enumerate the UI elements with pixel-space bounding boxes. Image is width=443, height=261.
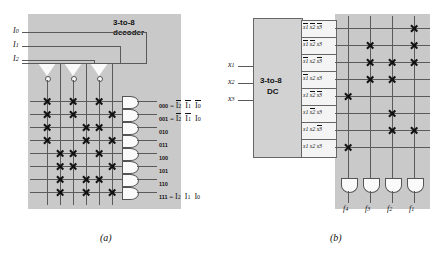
input-label-i1: I1 [13, 40, 19, 49]
input-wire-i1 [22, 46, 121, 47]
connection-mark [108, 110, 117, 119]
input-wire-i2 [22, 60, 95, 61]
input-label-i2: I2 [13, 54, 19, 63]
output-wire [137, 166, 157, 167]
input-label-x2: x2 [228, 77, 235, 86]
col-line-i1 [86, 63, 87, 205]
output-stem [370, 191, 371, 203]
output-label: f4 [343, 204, 348, 213]
output-stem [392, 191, 393, 203]
caption-b: (b) [330, 232, 342, 243]
connection-mark [56, 162, 65, 171]
output-wire [137, 179, 157, 180]
col-line-i2 [60, 63, 61, 205]
connection-mark [410, 41, 419, 50]
drop-i0 [146, 32, 147, 63]
connection-mark [410, 126, 419, 135]
output-wire [137, 192, 157, 193]
connection-mark [344, 143, 353, 152]
and-gate [122, 96, 139, 109]
inverter-i1 [64, 63, 82, 76]
inv-feed-i0 [90, 63, 147, 64]
output-wire [137, 127, 157, 128]
connection-mark [388, 58, 397, 67]
and-gate [122, 161, 139, 174]
and-gate [122, 109, 139, 122]
minterm-label: x1 x2 x3 [303, 126, 322, 132]
connection-mark [43, 123, 52, 132]
connection-mark [344, 92, 353, 101]
connection-mark [95, 175, 104, 184]
row-line-110 [30, 179, 122, 180]
inverter-i0 [90, 63, 108, 76]
and-gate [122, 135, 139, 148]
connection-mark [410, 24, 419, 33]
and-gate [122, 174, 139, 187]
output-label: f3 [365, 204, 370, 213]
connection-mark [366, 75, 375, 84]
connection-mark [388, 109, 397, 118]
output-wire [137, 101, 157, 102]
and-gate [122, 187, 139, 200]
connection-mark [95, 123, 104, 132]
output-label: 111 = I2 I1 I0 [159, 185, 200, 203]
connection-mark [82, 136, 91, 145]
connection-mark [410, 58, 419, 67]
drop-i1 [120, 46, 121, 63]
input-label-i0: I0 [13, 26, 19, 35]
connection-mark [82, 175, 91, 184]
connection-mark [82, 123, 91, 132]
connection-mark [56, 175, 65, 184]
input-label-x3: x3 [228, 94, 235, 103]
connection-mark [69, 149, 78, 158]
minterm-row-wire [335, 113, 430, 114]
output-stem [348, 191, 349, 203]
decoder-block-label-line2: DC [267, 87, 279, 96]
connection-mark [43, 136, 52, 145]
connection-mark [108, 188, 117, 197]
minterm-row-wire [335, 79, 430, 80]
connection-mark [69, 162, 78, 171]
caption-a: (a) [100, 232, 112, 243]
minterm-label: x1 x2 x3 [303, 58, 322, 64]
output-wire [137, 140, 157, 141]
output-wire [137, 153, 157, 154]
inverter-i2 [38, 63, 56, 76]
output-stem [414, 191, 415, 203]
connection-mark [82, 188, 91, 197]
output-wire [137, 114, 157, 115]
or-gate [341, 178, 358, 193]
or-gate [407, 178, 424, 193]
connection-mark [108, 162, 117, 171]
or-gate [385, 178, 402, 193]
input-wire-x3 [238, 100, 253, 101]
connection-mark [69, 97, 78, 106]
connection-mark [56, 149, 65, 158]
connection-mark [95, 97, 104, 106]
connection-mark [56, 188, 65, 197]
minterm-label: x1 x2 x3 [303, 41, 322, 47]
and-gate [122, 148, 139, 161]
output-label: f1 [409, 204, 414, 213]
panel-a-title-line1: 3-to-8 [113, 18, 135, 27]
minterm-label: x1 x2 x3 [303, 92, 322, 98]
output-label: f2 [387, 204, 392, 213]
minterm-label: x1 x2 x3 [303, 24, 322, 30]
out-col-f2 [392, 16, 393, 178]
and-gate [122, 122, 139, 135]
decoder-block-label-line1: 3-to-8 [260, 76, 282, 85]
connection-mark [108, 136, 117, 145]
connection-mark [366, 41, 375, 50]
or-gate [363, 178, 380, 193]
minterm-label: x1 x2 x3 [303, 143, 322, 149]
input-wire-x2 [238, 83, 253, 84]
input-wire-x1 [238, 66, 253, 67]
minterm-label: x1 x2 x3 [303, 109, 322, 115]
connection-mark [69, 110, 78, 119]
col-line-i0 [112, 63, 113, 205]
connection-mark [366, 58, 375, 67]
connection-mark [43, 97, 52, 106]
connection-mark [95, 149, 104, 158]
minterm-label: x1 x2 x3 [303, 75, 322, 81]
connection-mark [388, 126, 397, 135]
